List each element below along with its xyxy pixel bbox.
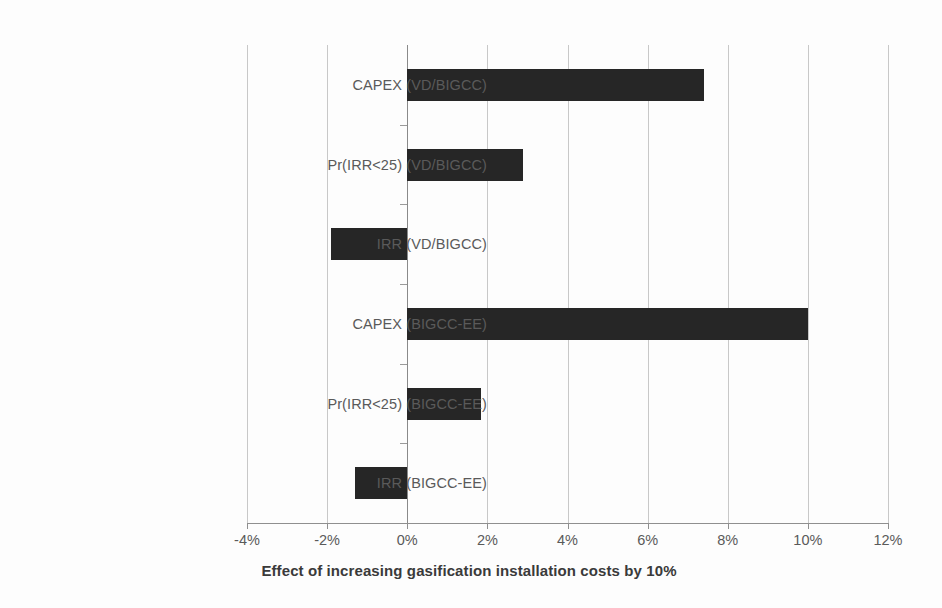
x-axis-tick [327,523,328,529]
category-label: CAPEX (VD/BIGCC) [187,77,487,93]
category-tick [400,443,407,444]
x-axis-tick-label: 4% [538,532,598,548]
x-axis-tick [808,523,809,529]
x-axis-tick-label: -2% [297,532,357,548]
category-label: IRR (BIGCC-EE) [187,475,487,491]
category-label-row: CAPEX (VD/BIGCC) [187,69,487,101]
x-axis-tick-label: -4% [217,532,277,548]
x-axis-tick [568,523,569,529]
x-axis-tick [728,523,729,529]
gridline-10 [808,45,809,523]
category-label-row: IRR (VD/BIGCC) [187,228,487,260]
gridline-2 [487,45,488,523]
gridline-8 [728,45,729,523]
x-axis-tick-label: 12% [858,532,918,548]
category-label: CAPEX (BIGCC-EE) [187,316,487,332]
category-label-row: IRR (BIGCC-EE) [187,467,487,499]
category-label-row: Pr(IRR<25) (VD/BIGCC) [187,149,487,181]
zero-axis-line [407,45,408,523]
x-axis-title-text: Effect of increasing gasification instal… [261,562,676,579]
x-axis-title: Effect of increasing gasification instal… [0,562,942,579]
gridline-neg2 [327,45,328,523]
x-axis-tick-label: 6% [618,532,678,548]
gridline-12 [888,45,889,523]
plot-area: CAPEX (VD/BIGCC)Pr(IRR<25) (VD/BIGCC)IRR… [247,45,888,523]
category-label-row: Pr(IRR<25) (BIGCC-EE) [187,388,487,420]
x-axis-tick-label: 10% [778,532,838,548]
category-label: IRR (VD/BIGCC) [187,236,487,252]
x-axis-tick [648,523,649,529]
gridline-4 [568,45,569,523]
x-axis-tick [487,523,488,529]
category-label: Pr(IRR<25) (BIGCC-EE) [187,396,487,412]
x-axis-tick [247,523,248,529]
category-tick [400,284,407,285]
category-tick [400,204,407,205]
x-axis-tick-label: 0% [377,532,437,548]
x-axis-tick-label: 8% [698,532,758,548]
category-tick [400,364,407,365]
gridline-neg4 [247,45,248,523]
x-axis-tick [888,523,889,529]
gridline-6 [648,45,649,523]
x-axis-tick [407,523,408,529]
category-label: Pr(IRR<25) (VD/BIGCC) [187,157,487,173]
category-tick [400,125,407,126]
sensitivity-tornado-chart: CAPEX (VD/BIGCC)Pr(IRR<25) (VD/BIGCC)IRR… [0,0,942,608]
x-axis-tick-label: 2% [457,532,517,548]
category-label-row: CAPEX (BIGCC-EE) [187,308,487,340]
